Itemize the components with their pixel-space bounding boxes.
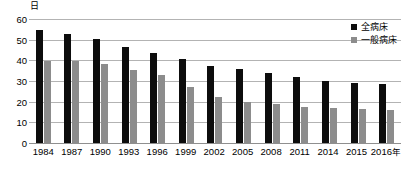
bar-group <box>29 19 58 143</box>
bar-total <box>36 30 43 143</box>
bar-general <box>44 61 51 143</box>
legend-item-general: 一般病床 <box>351 35 397 45</box>
bar-general <box>101 64 108 143</box>
bar-group <box>315 19 344 143</box>
legend-item-total: 全病床 <box>351 22 388 32</box>
legend-label-general: 一般病床 <box>361 35 397 45</box>
bar-general <box>387 110 394 143</box>
x-axis-line <box>29 143 401 144</box>
y-axis-unit-label: 日 <box>30 1 39 11</box>
bar-total <box>122 47 129 143</box>
bar-group <box>229 19 258 143</box>
bar-group <box>115 19 144 143</box>
bar-group <box>143 19 172 143</box>
x-axis-label: 2015 <box>342 146 370 158</box>
bar-general <box>72 61 79 143</box>
y-tick-10: 10 <box>3 118 27 127</box>
bar-groups <box>29 19 401 143</box>
legend-swatch-general-icon <box>351 37 357 43</box>
bar-general <box>215 97 222 143</box>
x-axis-label: 1993 <box>114 146 142 158</box>
x-axis-labels: 1984198719901993199619992002200520082011… <box>29 146 401 158</box>
bar-general <box>187 87 194 143</box>
x-axis-label: 2008 <box>257 146 285 158</box>
bar-group <box>58 19 87 143</box>
bar-general <box>244 102 251 143</box>
legend-label-total: 全病床 <box>361 22 388 32</box>
legend-swatch-total-icon <box>351 24 357 30</box>
x-axis-label: 1999 <box>171 146 199 158</box>
bar-general <box>359 109 366 143</box>
x-axis-label: 2016年 <box>371 146 401 158</box>
bar-total <box>293 77 300 143</box>
x-axis-label: 2014 <box>314 146 342 158</box>
bar-group <box>201 19 230 143</box>
x-axis-label: 2011 <box>285 146 313 158</box>
bar-total <box>351 83 358 143</box>
bar-general <box>301 107 308 143</box>
x-axis-unit: 年 <box>392 147 401 157</box>
y-tick-50: 50 <box>3 36 27 45</box>
bar-total <box>207 66 214 144</box>
bar-total <box>93 39 100 143</box>
y-tick-30: 30 <box>3 77 27 86</box>
bar-total <box>150 53 157 143</box>
x-axis-label: 2005 <box>228 146 256 158</box>
bar-group <box>86 19 115 143</box>
bar-group <box>172 19 201 143</box>
bar-group <box>286 19 315 143</box>
bar-general <box>330 108 337 143</box>
bar-group <box>258 19 287 143</box>
bar-general <box>273 104 280 143</box>
x-axis-label: 1987 <box>57 146 85 158</box>
bar-chart: 日 60 50 40 30 20 10 0 198419871990199319… <box>0 0 405 170</box>
bar-total <box>379 84 386 143</box>
x-axis-label: 1984 <box>29 146 57 158</box>
bar-general <box>158 75 165 143</box>
bar-total <box>236 69 243 143</box>
bar-total <box>265 73 272 143</box>
x-axis-label: 1996 <box>143 146 171 158</box>
y-tick-20: 20 <box>3 98 27 107</box>
chart-legend: 全病床 一般病床 <box>351 22 397 45</box>
y-axis-tick-labels: 60 50 40 30 20 10 0 <box>0 19 27 143</box>
y-tick-60: 60 <box>3 15 27 24</box>
x-axis-label: 2002 <box>200 146 228 158</box>
y-tick-40: 40 <box>3 56 27 65</box>
bar-total <box>64 34 71 143</box>
bar-total <box>322 81 329 143</box>
y-tick-0: 0 <box>3 139 27 148</box>
bar-total <box>179 59 186 143</box>
x-axis-label: 1990 <box>86 146 114 158</box>
bar-general <box>130 70 137 143</box>
